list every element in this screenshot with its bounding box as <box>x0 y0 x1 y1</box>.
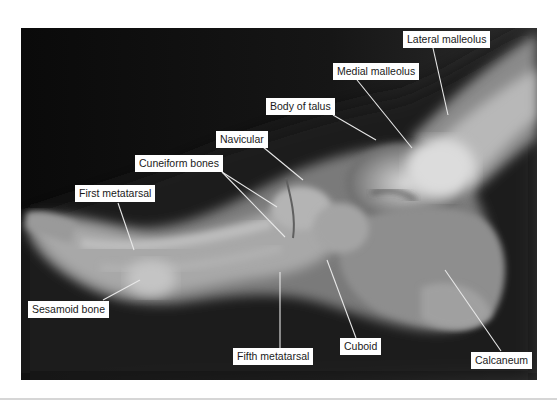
label-fifth-metatarsal: Fifth metatarsal <box>233 348 313 365</box>
label-calcaneum: Calcaneum <box>471 352 532 369</box>
foot-xray-image <box>21 28 537 380</box>
label-cuneiform-bones: Cuneiform bones <box>135 155 223 172</box>
foot-bones-illustration <box>21 28 537 380</box>
label-cuboid: Cuboid <box>340 338 381 355</box>
label-navicular: Navicular <box>216 131 268 148</box>
bottom-divider <box>0 398 557 400</box>
label-lateral-malleolus: Lateral malleolus <box>403 31 490 48</box>
label-medial-malleolus: Medial malleolus <box>333 63 419 80</box>
label-body-of-talus: Body of talus <box>266 98 335 115</box>
label-first-metatarsal: First metatarsal <box>75 185 155 202</box>
label-sesamoid-bone: Sesamoid bone <box>28 301 109 318</box>
